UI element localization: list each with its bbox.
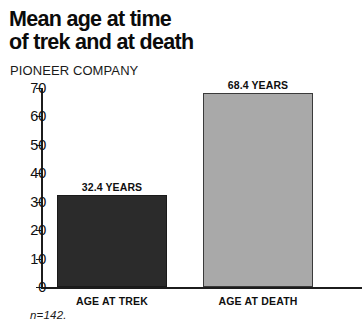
y-tick-label-20: 20 bbox=[6, 223, 46, 238]
y-tick-label-50: 50 bbox=[6, 138, 46, 153]
x-axis-line bbox=[41, 287, 362, 289]
category-label-age-at-death: AGE AT DEATH bbox=[193, 295, 323, 307]
category-label-age-at-trek: AGE AT TREK bbox=[47, 295, 177, 307]
y-tick-label-30: 30 bbox=[6, 195, 46, 210]
y-tick-label-60: 60 bbox=[6, 109, 46, 124]
bar-value-label-age-at-death: 68.4 YEARS bbox=[203, 79, 313, 91]
chart-plot-area: 70 60 50 40 30 20 10 0 32.4 YEARS 68.4 Y… bbox=[0, 0, 362, 327]
bar-age-at-trek bbox=[57, 195, 167, 287]
bar-age-at-death bbox=[203, 93, 313, 287]
chart-footnote: n=142. bbox=[30, 309, 67, 321]
y-tick-label-0: 0 bbox=[6, 280, 46, 295]
bar-value-label-age-at-trek: 32.4 YEARS bbox=[57, 181, 167, 193]
y-tick-label-70: 70 bbox=[6, 81, 46, 96]
y-tick-label-40: 40 bbox=[6, 166, 46, 181]
y-tick-label-10: 10 bbox=[6, 252, 46, 267]
